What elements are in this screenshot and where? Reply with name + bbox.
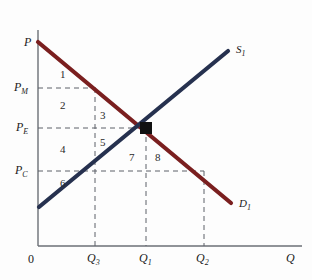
supply-curve[interactable] (39, 51, 228, 207)
x-tick-q2-base: Q (196, 251, 205, 265)
region-label-5: 5 (100, 137, 106, 148)
origin-label: 0 (28, 252, 34, 267)
y-tick-pe-sub: E (23, 127, 28, 136)
x-tick-label-q2: Q2 (196, 252, 209, 267)
supply-demand-figure: P Q 0 PM PE PC Q3 Q1 Q2 S1 D1 1 2 3 4 5 … (0, 0, 312, 280)
region-label-3: 3 (100, 110, 106, 121)
x-tick-q2-sub: 2 (205, 258, 209, 267)
x-tick-label-q1: Q1 (139, 252, 152, 267)
supply-curve-label: S1 (236, 44, 246, 58)
region-label-7: 7 (129, 152, 135, 163)
region-label-1: 1 (60, 69, 66, 80)
region-label-6: 6 (60, 178, 66, 189)
supply-label-sub: 1 (242, 49, 246, 58)
y-tick-label-pe: PE (16, 121, 28, 136)
demand-curve[interactable] (38, 42, 231, 203)
x-tick-q1-base: Q (139, 251, 148, 265)
y-tick-pm-sub: M (21, 87, 28, 96)
region-label-4: 4 (60, 144, 66, 155)
chart-canvas (0, 0, 312, 280)
x-tick-q3-base: Q (87, 251, 96, 265)
x-tick-label-q3: Q3 (87, 252, 100, 267)
region-label-2: 2 (60, 100, 66, 111)
y-tick-pc-sub: C (22, 170, 27, 179)
y-tick-label-pc: PC (15, 164, 28, 179)
x-tick-q1-sub: 1 (148, 258, 152, 267)
demand-label-base: D (239, 197, 247, 209)
demand-curve-label: D1 (239, 198, 251, 212)
price-axis-label: P (24, 36, 31, 48)
equilibrium-point-marker[interactable] (140, 122, 152, 134)
demand-label-sub: 1 (247, 203, 251, 212)
quantity-axis-label: Q (286, 252, 295, 264)
x-tick-q3-sub: 3 (96, 258, 100, 267)
y-tick-label-pm: PM (14, 81, 28, 96)
region-label-8: 8 (155, 152, 161, 163)
